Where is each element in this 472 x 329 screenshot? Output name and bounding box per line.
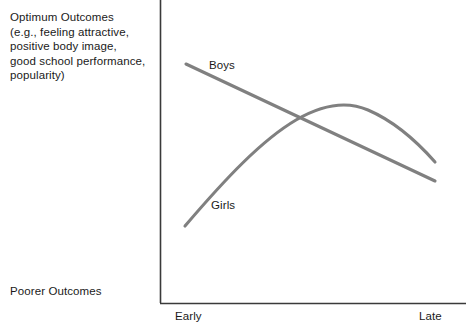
series-line-boys (186, 64, 435, 181)
chart-figure: Optimum Outcomes (e.g., feeling attracti… (0, 0, 472, 329)
y-axis-low-label: Poorer Outcomes (10, 284, 102, 299)
series-label-girls: Girls (211, 198, 235, 213)
series-label-boys: Boys (209, 58, 235, 73)
x-axis-tick-label-late: Late (419, 309, 442, 324)
y-axis-high-label: Optimum Outcomes (e.g., feeling attracti… (10, 10, 150, 83)
x-axis-tick-label-early: Early (175, 309, 202, 324)
